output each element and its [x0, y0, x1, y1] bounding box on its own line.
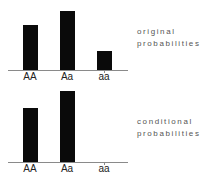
bar-aa	[97, 51, 112, 70]
legend: conditional probabilities	[137, 116, 201, 140]
legend: original probabilities	[137, 26, 201, 50]
x-label-AA: AA	[15, 72, 45, 82]
bar-AA	[23, 25, 38, 70]
original-probabilities-chart: AA Aa aa original probabilities	[0, 0, 202, 90]
bar-Aa	[60, 91, 75, 162]
legend-line-1: original	[137, 26, 201, 38]
x-label-aa: aa	[89, 164, 119, 174]
x-label-Aa: Aa	[52, 72, 82, 82]
legend-line-1: conditional	[137, 116, 201, 128]
bar-Aa	[60, 11, 75, 70]
conditional-probabilities-chart: AA Aa aa conditional probabilities	[0, 90, 202, 180]
x-label-AA: AA	[15, 164, 45, 174]
legend-line-2: probabilities	[137, 38, 201, 50]
bar-AA	[23, 108, 38, 162]
x-label-Aa: Aa	[52, 164, 82, 174]
legend-line-2: probabilities	[137, 128, 201, 140]
x-label-aa: aa	[89, 72, 119, 82]
